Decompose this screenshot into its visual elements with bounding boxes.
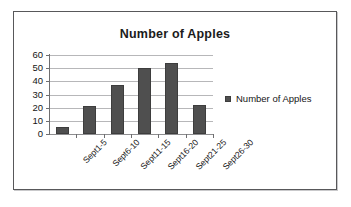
screenshot-root: Number of Apples 0102030405060 Sept1-5Se… (0, 0, 351, 207)
legend-swatch-icon (225, 96, 231, 102)
bar[interactable] (83, 106, 96, 134)
bar-slot (76, 55, 103, 134)
legend-entry-label: Number of Apples (236, 94, 312, 104)
bar[interactable] (138, 68, 151, 134)
bar[interactable] (193, 105, 206, 134)
y-axis-tick-label: 20 (32, 103, 43, 113)
bar-slot (131, 55, 158, 134)
chart-legend: Number of Apples (225, 94, 312, 104)
y-axis-tick (46, 134, 50, 135)
bar[interactable] (111, 85, 124, 134)
y-axis-tick-label: 60 (32, 50, 43, 60)
bar-slot (158, 55, 185, 134)
x-axis-tick-label: Sept1-5 (82, 138, 109, 165)
bars-layer (49, 55, 213, 134)
bar[interactable] (165, 63, 178, 134)
bar-slot (49, 55, 76, 134)
y-axis-tick-label: 50 (32, 63, 43, 73)
chart-title: Number of Apples (14, 27, 336, 41)
chart-object-frame[interactable]: Number of Apples 0102030405060 Sept1-5Se… (13, 11, 337, 190)
plot-area: 0102030405060 (49, 55, 213, 134)
y-axis-tick-label: 30 (32, 90, 43, 100)
bar[interactable] (56, 127, 69, 134)
x-axis-tick-label: Sept6-10 (111, 138, 141, 168)
y-axis-tick-label: 40 (32, 77, 43, 87)
x-axis-labels: Sept1-5Sept6-10Sept11-15Sept16-20Sept21-… (49, 138, 213, 188)
bar-slot (186, 55, 213, 134)
bar-slot (104, 55, 131, 134)
y-axis-tick-label: 10 (32, 116, 43, 126)
y-axis-tick-label: 0 (38, 129, 43, 139)
x-axis-tick (213, 134, 214, 138)
